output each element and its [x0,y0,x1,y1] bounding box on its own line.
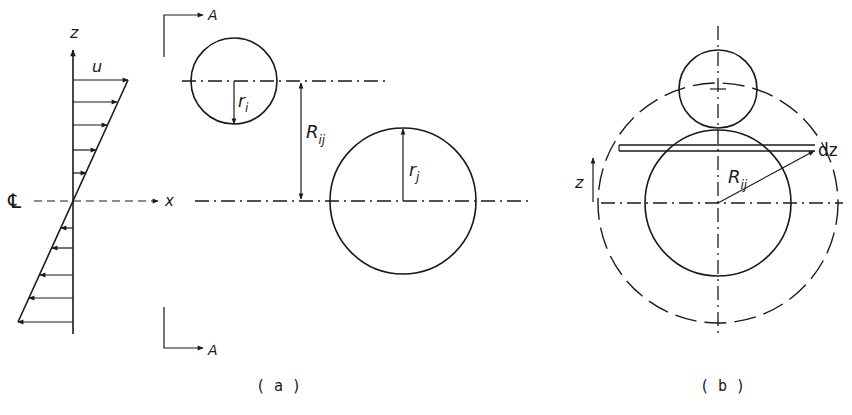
panel-a: z u ℄ x A A [7,7,530,395]
particle-i: ri [182,38,386,124]
figure-canvas: z u ℄ x A A [0,0,852,415]
x-axis-label: x [164,192,174,210]
panel-a-caption: ( a ) [256,377,301,395]
section-marker-top: A [164,7,218,57]
slice-label: dz [818,140,838,160]
section-marker-bottom: A [164,307,218,358]
particle-i-subscript: i [245,101,249,115]
separation-subscript: ij [319,133,326,147]
panel-b-caption: ( b ) [700,377,745,395]
separation-dimension: Rij [301,83,326,199]
collision-geometry-figure: z u ℄ x A A [0,0,852,415]
z-axis-label: z [69,23,79,42]
centerline-symbol: ℄ [7,189,21,213]
panel-b: dz Rij z ( b ) [574,26,843,395]
particle-j-radius-label: rj [409,160,420,184]
separation-label: Rij [728,166,748,192]
separation-subscript: ij [741,178,748,192]
section-label-top: A [207,7,218,23]
particle-i-radius-label: ri [238,91,249,115]
z-axis-label: z [574,173,584,192]
velocity-label: u [92,57,102,76]
separation-label: Rij [306,121,326,147]
section-label-bottom: A [207,342,218,358]
velocity-profile: z u ℄ x [7,23,174,334]
particle-j: rj [195,128,530,274]
